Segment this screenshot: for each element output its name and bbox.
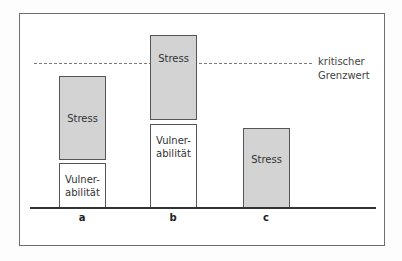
- category-label-c: c: [243, 212, 289, 223]
- bar-b-vulnerability: Vulner- abilität: [150, 124, 197, 208]
- stress-label: Stress: [158, 52, 189, 65]
- threshold-label-line2: Grenzwert: [318, 69, 370, 83]
- critical-threshold-label: kritischer Grenzwert: [318, 55, 370, 83]
- bar-a-stress: Stress: [59, 76, 106, 160]
- vulnerability-label-2: abilität: [156, 147, 191, 160]
- threshold-label-line1: kritischer: [318, 55, 370, 69]
- category-label-b: b: [150, 212, 196, 223]
- bar-c-stress: Stress: [243, 128, 290, 208]
- bar-a-vulnerability: Vulner- abilität: [59, 163, 106, 208]
- vulnerability-label-1: Vulner-: [65, 173, 100, 186]
- vulnerability-label-2: abilität: [65, 186, 100, 199]
- bar-b-stress: Stress: [150, 35, 197, 120]
- vulnerability-label-1: Vulner-: [156, 134, 191, 147]
- stress-label: Stress: [251, 153, 282, 166]
- category-label-a: a: [59, 212, 105, 223]
- stress-label: Stress: [67, 112, 98, 125]
- baseline: [30, 207, 376, 209]
